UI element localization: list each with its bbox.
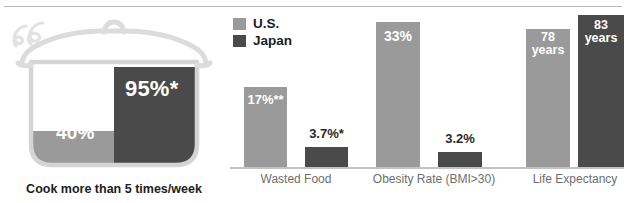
bar-value-us-obesity-rate: 33% (376, 29, 420, 43)
bar-value-us-wasted-food: 17%** (244, 93, 287, 106)
bar-value-japan-wasted-food: 3.7%* (298, 127, 355, 140)
pot-lid-rim-right (197, 63, 210, 66)
bar-value-us-life-expectancy: 78years (526, 31, 570, 57)
bar-japan-wasted-food (305, 147, 348, 167)
category-label-life-expectancy: Life Expectancy (520, 172, 626, 186)
cooking-pot-icon (0, 10, 228, 182)
chart-baseline (230, 167, 624, 169)
category-label-wasted-food: Wasted Food (234, 172, 358, 186)
category-label-obesity-rate: Obesity Rate (BMI>30) (348, 172, 520, 186)
pot-value-us: 40% (56, 122, 95, 144)
pot-lid-rim-left (18, 63, 31, 66)
bar-value-japan-obesity-rate: 3.2% (431, 132, 489, 145)
infographic-figure: 40% 95%* Cook more than 5 times/week U.S… (0, 0, 626, 203)
cooking-frequency-panel: 40% 95%* Cook more than 5 times/week (0, 10, 228, 203)
pot-value-japan: 95%* (125, 76, 178, 102)
bar-chart-panel: 17%** 3.7%* Wasted Food 33% 3.2% Obesity… (228, 0, 626, 203)
bar-fill-japan (438, 152, 482, 167)
bar-japan-obesity-rate (438, 152, 482, 167)
bar-value-japan-life-expectancy: 83years (578, 19, 624, 45)
bar-fill-japan (305, 147, 348, 167)
category-label-cooking-frequency: Cook more than 5 times/week (0, 182, 228, 196)
pot-lid-outline (22, 31, 206, 62)
